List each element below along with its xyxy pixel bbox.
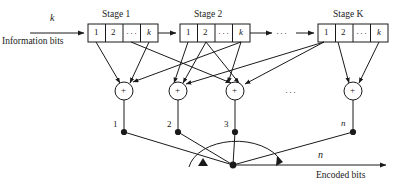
tap-s1c1-to-adder1	[96, 42, 120, 83]
input-rate-label: k	[50, 13, 54, 23]
contact-label-2: 2	[167, 120, 172, 129]
stage-1-title: Stage 1	[102, 10, 130, 20]
stage-K-cell-2: 2	[341, 28, 346, 37]
contact-label-3: 3	[224, 120, 229, 129]
stage-K-cell-ellipsis: ···	[356, 29, 368, 38]
contact-dot-2	[175, 129, 181, 135]
stage-gap-ellipsis: ···	[276, 29, 288, 38]
stage-1-cell-2: 2	[111, 28, 116, 37]
stage-1-cell-1: 1	[94, 28, 99, 37]
stage-K-title: Stage K	[333, 10, 363, 20]
contact-dot-3	[232, 129, 238, 135]
contact-label-1: 1	[113, 120, 118, 129]
stage-2-title: Stage 2	[194, 10, 222, 20]
adder-3-symbol: +	[232, 86, 237, 95]
encoder-diagram: k Information bits Stage 1 1 2 ··· k Sta…	[0, 0, 411, 188]
stage-1-cell-k: k	[147, 28, 151, 37]
output-caption: Encoded bits	[316, 171, 365, 181]
contact-label-n: n	[341, 119, 346, 128]
output-tick-arrow	[198, 158, 208, 166]
stage-1-cell-ellipsis: ···	[126, 29, 138, 38]
input-caption: Information bits	[2, 37, 63, 47]
tap-sKc1-to-adder3	[245, 42, 324, 84]
stage-2-cell-ellipsis: ···	[218, 29, 230, 38]
commutator-hub-dot	[230, 162, 237, 169]
tap-sKc2-to-adderN	[338, 42, 349, 83]
stage-2-cell-2: 2	[203, 28, 208, 37]
adder-1-symbol: +	[121, 86, 126, 95]
stage-K-cell-1: 1	[324, 28, 329, 37]
contact-dot-n	[350, 129, 356, 135]
stage-K-cell-k: k	[377, 28, 381, 37]
stage-2-cell-1: 1	[186, 28, 191, 37]
stage-2-cell-k: k	[239, 28, 243, 37]
tap-sKck-to-adderN	[359, 42, 379, 83]
tap-sKc1-to-adder2	[186, 42, 324, 84]
contact-dot-1	[121, 129, 127, 135]
adder-2-symbol: +	[175, 86, 180, 95]
output-rate-label: n	[318, 150, 323, 160]
contactN-to-hub	[233, 132, 353, 165]
contact3-to-hub	[233, 132, 235, 165]
contact1-to-hub	[124, 132, 233, 165]
adder-gap-ellipsis: ···	[285, 88, 297, 97]
adder-n-symbol: +	[350, 86, 355, 95]
